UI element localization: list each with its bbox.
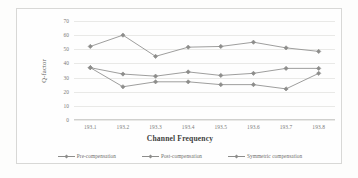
data-point-marker: [317, 49, 321, 53]
data-point-marker: [121, 33, 125, 37]
plot-area: 010203040506070: [74, 21, 335, 120]
y-axis-label: Q-factor: [40, 59, 47, 83]
data-point-marker: [88, 44, 92, 48]
y-axis-tick-label: 30: [63, 75, 69, 81]
data-point-marker: [153, 74, 157, 78]
data-point-marker: [284, 66, 288, 70]
y-axis-tick-label: 50: [63, 46, 69, 52]
y-axis-tick-label: 60: [63, 32, 69, 38]
data-point-marker: [88, 66, 92, 70]
chart-legend: Pre-compensationPost-compensationSymmetr…: [17, 150, 343, 162]
x-axis-tick-label: 193.5: [214, 124, 227, 130]
series-layer: [74, 21, 335, 120]
data-point-marker: [219, 83, 223, 87]
data-point-marker: [121, 85, 125, 89]
data-point-marker: [251, 71, 255, 75]
x-axis-tick-label: 193.8: [312, 124, 325, 130]
x-axis-tick-label: 193.3: [149, 124, 162, 130]
legend-swatch-icon: [58, 154, 75, 159]
y-axis-tick-label: 0: [66, 117, 69, 123]
legend-item-2[interactable]: Symmetric compensation: [228, 153, 302, 159]
x-axis-tick-label: 193.4: [182, 124, 195, 130]
x-axis-tick-label: 193.2: [117, 124, 130, 130]
legend-swatch-icon: [142, 154, 159, 159]
data-point-marker: [153, 80, 157, 84]
series-line-2: [90, 68, 318, 89]
legend-label: Post-compensation: [161, 153, 202, 159]
x-axis-tick-label: 193.1: [84, 124, 97, 130]
data-point-marker: [186, 80, 190, 84]
x-axis-tick-label: 193.7: [280, 124, 293, 130]
chart-container: Q-factor 010203040506070 193.1193.2193.3…: [16, 8, 342, 164]
legend-swatch-icon: [228, 154, 245, 159]
y-axis-tick-label: 10: [63, 103, 69, 109]
y-axis-tick-label: 70: [63, 18, 69, 24]
data-point-marker: [317, 66, 321, 70]
data-point-marker: [153, 54, 157, 58]
data-point-marker: [317, 71, 321, 75]
data-point-marker: [186, 70, 190, 74]
y-axis-tick-label: 40: [63, 60, 69, 66]
x-axis-label: Channel Frequency: [17, 134, 343, 143]
legend-item-0[interactable]: Pre-compensation: [58, 153, 116, 159]
data-point-marker: [251, 83, 255, 87]
x-axis-ticks: 193.1193.2193.3193.4193.5193.6193.7193.8: [74, 124, 335, 134]
gridline: [74, 120, 335, 121]
legend-label: Pre-compensation: [77, 153, 116, 159]
legend-item-1[interactable]: Post-compensation: [142, 153, 202, 159]
data-point-marker: [284, 46, 288, 50]
series-line-0: [90, 35, 318, 56]
x-axis-tick-label: 193.6: [247, 124, 260, 130]
legend-label: Symmetric compensation: [247, 153, 302, 159]
data-point-marker: [121, 72, 125, 76]
data-point-marker: [219, 44, 223, 48]
data-point-marker: [251, 40, 255, 44]
data-point-marker: [219, 73, 223, 77]
data-point-marker: [284, 87, 288, 91]
data-point-marker: [186, 45, 190, 49]
y-axis-tick-label: 20: [63, 89, 69, 95]
